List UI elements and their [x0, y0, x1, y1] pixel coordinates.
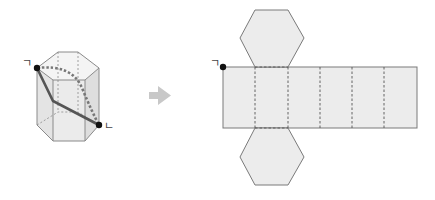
end-point-label: ㄴ [104, 121, 114, 132]
diagram-canvas [0, 0, 435, 200]
top-hexagon [240, 10, 304, 67]
start-point-dot [34, 65, 40, 71]
start-point-label: ㄱ [22, 58, 32, 69]
net-start-point-dot [220, 64, 226, 70]
right-arrow-icon [149, 86, 171, 105]
end-point-dot [96, 122, 102, 128]
net-start-point-label: ㄱ [210, 58, 220, 69]
prism-net [220, 10, 417, 185]
hexagonal-prism [34, 52, 102, 141]
bottom-hexagon [240, 128, 304, 185]
